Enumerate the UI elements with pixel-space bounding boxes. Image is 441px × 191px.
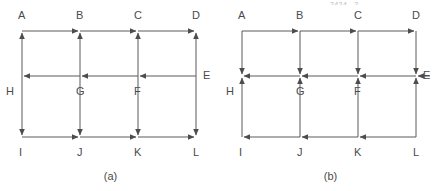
figure-b: A B C D E F G H I J K L (b): [220, 0, 441, 191]
node-label-b-C: C: [354, 10, 362, 21]
figure-page: 2424...2... ...: [0, 0, 441, 191]
node-label-a-F: F: [134, 86, 141, 97]
node-label-b-H: H: [226, 86, 234, 97]
node-label-a-E: E: [203, 70, 210, 81]
diagram-a-graph: [0, 0, 221, 170]
node-label-a-B: B: [76, 10, 83, 21]
node-label-b-F: F: [354, 86, 361, 97]
node-label-b-A: A: [238, 10, 245, 21]
node-label-b-J: J: [297, 147, 303, 158]
node-label-a-C: C: [134, 10, 142, 21]
node-label-a-G: G: [76, 86, 85, 97]
node-label-b-L: L: [413, 147, 419, 158]
node-label-a-A: A: [18, 10, 25, 21]
figure-a-caption: (a): [0, 170, 221, 182]
node-label-b-B: B: [296, 10, 303, 21]
figure-b-caption: (b): [220, 170, 441, 182]
node-label-b-I: I: [239, 147, 242, 158]
node-label-b-D: D: [412, 10, 420, 21]
node-label-a-D: D: [192, 10, 200, 21]
node-label-a-L: L: [193, 147, 199, 158]
node-label-b-K: K: [354, 147, 361, 158]
node-label-a-H: H: [6, 86, 14, 97]
node-label-a-J: J: [77, 147, 83, 158]
diagram-b-graph: [220, 0, 441, 170]
node-label-b-G: G: [296, 86, 305, 97]
node-label-a-K: K: [134, 147, 141, 158]
node-label-a-I: I: [19, 147, 22, 158]
figure-a: A B C D E F G H I J K L (a): [0, 0, 221, 191]
node-label-b-E: E: [423, 70, 430, 81]
